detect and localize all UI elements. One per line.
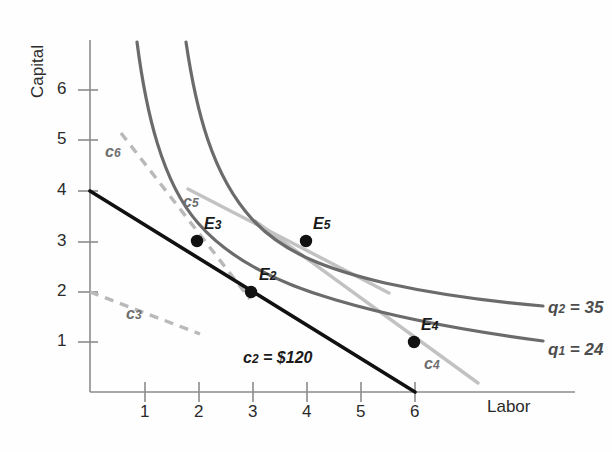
x-tick-label-6: 6 [410, 402, 419, 422]
isocost-label-c5-sub: 5 [192, 196, 199, 210]
isocost-label-c6: c6 [105, 143, 121, 161]
point-label-E3-sub: 3 [215, 218, 222, 232]
y-tick-label-4: 4 [57, 180, 66, 200]
curve-label-q2-value: = 35 [570, 298, 604, 317]
point-label-E2-name: E [259, 266, 270, 283]
x-axis-title: Labor [487, 397, 530, 417]
isoquant-curve-q1 [137, 42, 543, 341]
isocost-line-c6 [121, 133, 250, 299]
point-label-E5-name: E [313, 215, 324, 232]
curve-label-q2-name: q [548, 298, 558, 317]
isocost-label-c2-name: c [243, 349, 252, 366]
point-label-E2-sub: 2 [270, 269, 277, 283]
isocost-label-c6-name: c [105, 143, 114, 160]
y-tick-label-6: 6 [57, 79, 66, 99]
point-label-E3-name: E [204, 215, 215, 232]
isocost-label-c2-sub: 2 [252, 352, 259, 366]
curve-label-q1-value: = 24 [570, 340, 604, 359]
isocost-label-c4: c4 [424, 355, 440, 373]
isocost-label-c2-value: = $120 [263, 349, 312, 366]
point-label-E4-name: E [421, 316, 432, 333]
curve-label-q1-sub: 1 [558, 344, 565, 358]
point-label-E4-sub: 4 [432, 319, 439, 333]
y-tick-label-3: 3 [57, 231, 66, 251]
x-tick-label-5: 5 [356, 402, 365, 422]
point-label-E3: E3 [204, 215, 221, 233]
isocost-label-c2: c2 = $120 [243, 349, 312, 367]
x-tick-label-4: 4 [302, 402, 311, 422]
isocost-label-c3-sub: 3 [135, 308, 142, 322]
isocost-label-c3: c3 [126, 305, 142, 323]
y-tick-label-5: 5 [57, 129, 66, 149]
point-E5 [300, 235, 312, 247]
isocost-label-c5-name: c [183, 193, 192, 210]
chart-canvas [0, 0, 612, 452]
y-tick-label-2: 2 [57, 281, 66, 301]
curve-label-q2-sub: 2 [558, 302, 565, 316]
isoquant-curve-q2 [186, 42, 543, 306]
point-E2 [245, 286, 257, 298]
curve-label-q1: q1 = 24 [548, 340, 603, 360]
point-label-E5: E5 [313, 215, 330, 233]
point-label-E4: E4 [421, 316, 438, 334]
isocost-line-c3 [90, 292, 200, 334]
curve-label-q1-name: q [548, 340, 558, 359]
x-tick-label-2: 2 [194, 402, 203, 422]
isocost-label-c5: c5 [183, 193, 199, 211]
x-tick-label-3: 3 [248, 402, 257, 422]
curve-label-q2: q2 = 35 [548, 298, 603, 318]
point-E3 [191, 235, 203, 247]
x-tick-label-1: 1 [140, 402, 149, 422]
point-label-E2: E2 [259, 266, 276, 284]
point-label-E5-sub: 5 [324, 218, 331, 232]
isocost-label-c3-name: c [126, 305, 135, 322]
isocost-label-c6-sub: 6 [114, 146, 121, 160]
isocost-label-c4-sub: 4 [433, 358, 440, 372]
y-axis-ticks [78, 90, 98, 342]
chart-figure: Capital Labor 1 2 3 4 5 6 1 2 3 4 5 6 q2… [0, 0, 612, 452]
point-E4 [408, 336, 420, 348]
y-tick-label-1: 1 [57, 331, 66, 351]
isocost-label-c4-name: c [424, 355, 433, 372]
y-axis-title: Capital [28, 45, 48, 98]
